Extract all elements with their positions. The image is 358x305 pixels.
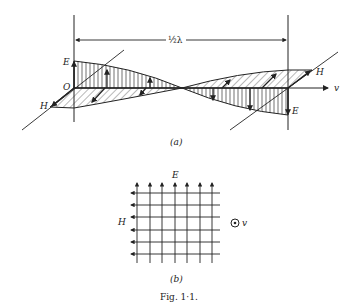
panel-b: E H v (b): [117, 170, 247, 284]
e-field-left-lobe: [74, 61, 182, 88]
h-right-label: H: [315, 67, 324, 77]
e-field-lines: [137, 183, 212, 263]
panel-a-label: (a): [170, 137, 183, 147]
h-left-label: H: [39, 101, 48, 111]
figure-canvas: ½λ E O H H E v (a): [0, 0, 358, 305]
h-field-lines: [131, 193, 220, 254]
panel-b-v-label: v: [242, 218, 247, 228]
e-right-label: E: [291, 106, 299, 116]
origin-label: O: [63, 82, 71, 92]
e-left-label: E: [62, 57, 70, 67]
out-of-page-icon: [231, 219, 239, 227]
panel-b-h-label: H: [117, 217, 126, 227]
half-wavelength-label: ½λ: [168, 35, 183, 45]
figure-caption: Fig. 1·1.: [160, 292, 198, 302]
v-label: v: [334, 83, 339, 93]
e-field-right-lobe: [182, 88, 288, 115]
panel-a: ½λ E O H H E v (a): [22, 15, 339, 147]
panel-b-e-label: E: [171, 170, 179, 180]
panel-b-label: (b): [170, 274, 183, 284]
